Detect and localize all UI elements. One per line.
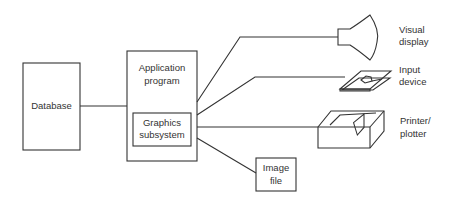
monitor-icon	[338, 15, 378, 60]
input-connector	[197, 77, 345, 115]
visual-display-label-2: display	[399, 36, 429, 48]
application-label-2: program	[127, 75, 197, 87]
diagram: Database Application program Graphics su…	[0, 0, 457, 200]
printer-label-2: plotter	[400, 128, 426, 140]
graphics-label-1: Graphics	[133, 117, 191, 129]
input-device-label-1: Input	[399, 64, 420, 76]
application-label-1: Application	[127, 62, 197, 74]
printer-icon	[318, 111, 384, 148]
image-file-connector	[197, 138, 256, 173]
database-label: Database	[23, 100, 80, 112]
visual-display-label-1: Visual	[399, 24, 425, 36]
input-device-label-2: device	[399, 76, 426, 88]
display-connector	[197, 37, 338, 102]
graphics-label-2: subsystem	[133, 129, 191, 141]
image-file-label-2: file	[256, 175, 296, 187]
printer-label-1: Printer/	[400, 115, 431, 127]
input-device-icon	[340, 71, 391, 91]
image-file-label-1: Image	[256, 162, 296, 174]
